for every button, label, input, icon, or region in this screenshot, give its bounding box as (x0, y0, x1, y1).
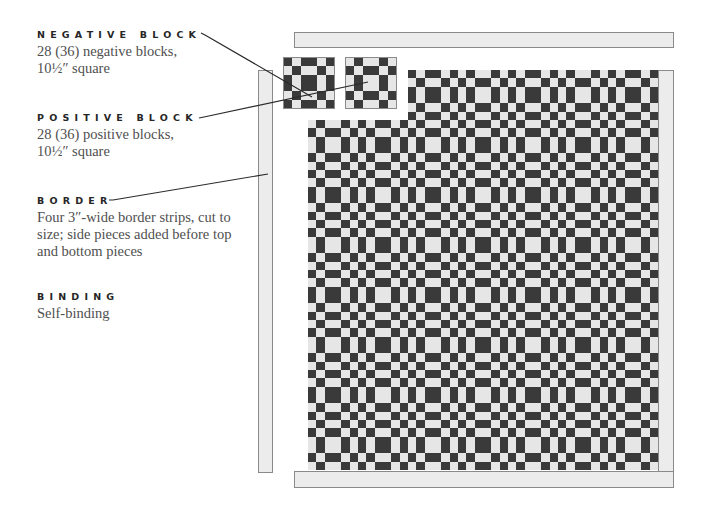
patch (475, 420, 492, 428)
patch (516, 403, 524, 411)
patch (475, 153, 492, 161)
patch (558, 170, 566, 178)
patch (416, 320, 424, 328)
patch (641, 328, 649, 336)
patch (366, 387, 374, 404)
patch (566, 162, 574, 170)
patch (466, 387, 474, 404)
patch (641, 362, 649, 370)
patch (591, 437, 599, 454)
patch (450, 120, 458, 128)
patch (650, 203, 658, 211)
patch (475, 362, 492, 370)
patch (550, 278, 558, 286)
patch (366, 120, 374, 128)
patch (350, 153, 358, 161)
patch (325, 228, 342, 236)
patch (450, 70, 458, 78)
patch (441, 353, 449, 361)
patch (575, 137, 592, 154)
patch (608, 320, 616, 328)
patch (458, 262, 466, 270)
patch (500, 112, 508, 120)
patch (341, 328, 349, 336)
patch (566, 320, 574, 328)
patch (408, 78, 416, 86)
patch (516, 378, 524, 386)
patch (325, 328, 342, 336)
description-line: 10½″ square (37, 143, 198, 160)
patch (541, 378, 549, 386)
patch (366, 462, 374, 470)
patch (625, 420, 642, 428)
patch (625, 253, 642, 261)
patch (350, 137, 358, 154)
patch (550, 212, 558, 220)
patch (441, 328, 449, 336)
patch (441, 303, 449, 311)
patch (541, 103, 549, 111)
patch (558, 112, 566, 120)
patch (608, 353, 616, 361)
patch (441, 453, 449, 461)
patch (600, 270, 608, 278)
border-heading: BORDER (37, 195, 231, 207)
patch (350, 437, 358, 454)
patch (566, 412, 574, 420)
patch (616, 453, 624, 461)
patch (325, 212, 342, 220)
patch (608, 378, 616, 386)
patch (575, 270, 592, 278)
patch (441, 178, 449, 186)
patch (458, 437, 466, 454)
positive-block (308, 220, 358, 270)
patch (450, 262, 458, 270)
patch (408, 170, 416, 178)
positive-block (408, 420, 458, 470)
patch (350, 270, 358, 278)
patch (600, 170, 608, 178)
positive-block (458, 270, 508, 320)
patch (391, 170, 399, 178)
patch (466, 112, 474, 120)
patch (408, 362, 416, 370)
patch (466, 137, 474, 154)
patch (316, 212, 324, 220)
patch (566, 353, 574, 361)
patch (441, 187, 449, 204)
patch (491, 362, 499, 370)
patch (608, 370, 616, 378)
patch (641, 170, 649, 178)
patch (491, 212, 499, 220)
patch (575, 462, 592, 470)
patch (391, 137, 399, 154)
patch (450, 153, 458, 161)
patch (350, 362, 358, 370)
patch (316, 162, 324, 170)
patch (541, 420, 549, 428)
patch (416, 137, 424, 154)
patch (608, 312, 616, 320)
patch (516, 170, 524, 178)
patch (450, 112, 458, 120)
patch (591, 137, 599, 154)
patch (508, 320, 516, 328)
patch (650, 270, 658, 278)
patch (550, 153, 558, 161)
patch (550, 237, 558, 254)
patch (541, 162, 549, 170)
patch (458, 420, 466, 428)
patch (625, 378, 642, 386)
patch (391, 162, 399, 170)
patch (500, 362, 508, 370)
patch (475, 303, 492, 311)
patch (625, 387, 642, 404)
patch (566, 437, 574, 454)
patch (358, 137, 366, 154)
patch (500, 403, 508, 411)
patch (366, 312, 374, 320)
patch (641, 353, 649, 361)
patch (566, 362, 574, 370)
patch (475, 87, 492, 104)
patch (608, 420, 616, 428)
